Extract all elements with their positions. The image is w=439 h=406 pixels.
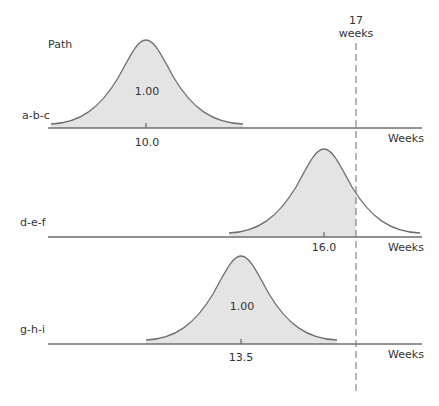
- path-row-d-e-f: d-e-f 16.0 Weeks: [20, 149, 424, 254]
- path-distribution-diagram: Path 17 weeks a-b-c 1.00 10.0 Weeks d-e-…: [0, 0, 439, 406]
- mean-label: 13.5: [229, 351, 254, 364]
- deadline-value: 17: [349, 14, 363, 27]
- path-name: a-b-c: [22, 109, 50, 122]
- deadline-unit: weeks: [339, 27, 374, 40]
- path-name: d-e-f: [20, 216, 47, 229]
- path-row-g-h-i: g-h-i 1.00 13.5 Weeks: [20, 256, 424, 364]
- distribution-fill: [51, 40, 243, 128]
- probability-label: 1.00: [135, 85, 160, 98]
- axis-label: Weeks: [388, 241, 424, 254]
- mean-label: 16.0: [312, 241, 337, 254]
- path-column-label: Path: [48, 38, 72, 51]
- path-name: g-h-i: [20, 323, 45, 336]
- mean-label: 10.0: [135, 136, 160, 149]
- path-row-a-b-c: a-b-c 1.00 10.0 Weeks: [22, 40, 424, 149]
- axis-label: Weeks: [388, 348, 424, 361]
- distribution-fill-partial: [229, 149, 420, 237]
- probability-label: 1.00: [230, 300, 255, 313]
- axis-label: Weeks: [388, 132, 424, 145]
